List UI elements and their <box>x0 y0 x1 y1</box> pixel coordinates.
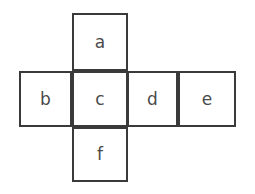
net-face-f: f <box>72 127 128 182</box>
net-face-c-label: c <box>95 91 104 108</box>
net-face-d-label: d <box>147 91 158 108</box>
net-face-e-label: e <box>202 91 212 108</box>
net-face-b-label: b <box>40 91 51 108</box>
net-face-b: b <box>19 71 72 127</box>
net-face-a: a <box>72 13 128 71</box>
net-face-e: e <box>178 71 236 127</box>
net-face-a-label: a <box>95 34 105 51</box>
cube-net-diagram: b d e a c f <box>0 0 255 194</box>
net-face-f-label: f <box>97 146 103 163</box>
net-face-d: d <box>127 71 178 127</box>
net-face-c: c <box>72 71 128 127</box>
